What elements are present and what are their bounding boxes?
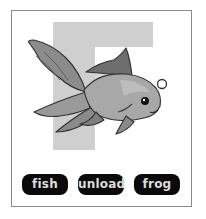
bubble-icon xyxy=(158,80,167,89)
option-button-unload[interactable]: unload xyxy=(78,174,124,195)
option-button-fish[interactable]: fish xyxy=(22,174,68,195)
option-button-frog[interactable]: frog xyxy=(134,174,180,195)
